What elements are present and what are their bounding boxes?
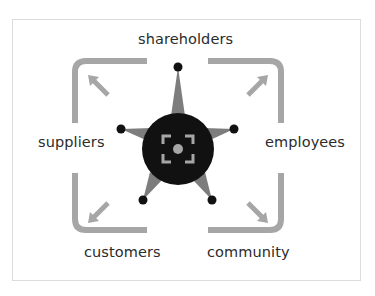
label-employees: employees — [265, 134, 345, 150]
dot-left — [117, 125, 126, 134]
bracket-bottom-left — [75, 173, 147, 230]
label-shareholders: shareholders — [138, 31, 233, 47]
dot-bottom-right — [208, 196, 217, 205]
arrow-down-left-icon — [88, 203, 108, 223]
label-suppliers: suppliers — [38, 134, 105, 150]
bracket-top-right — [208, 61, 281, 123]
focus-dot — [173, 144, 183, 154]
bracket-bottom-right — [208, 173, 281, 230]
dot-bottom-left — [139, 196, 148, 205]
arrow-up-left-icon — [88, 75, 108, 95]
dot-right — [230, 125, 239, 134]
arrow-up-right-icon — [248, 75, 268, 95]
bracket-top-left — [75, 61, 147, 123]
dot-top — [174, 63, 183, 72]
arrow-down-right-icon — [248, 203, 268, 223]
label-community: community — [207, 244, 290, 260]
label-customers: customers — [84, 244, 161, 260]
